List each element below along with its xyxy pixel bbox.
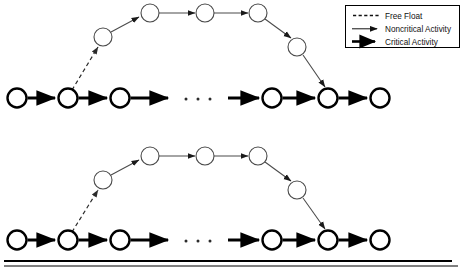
node-noncritical: [141, 4, 159, 22]
node-critical: [263, 231, 282, 250]
figure-canvas: Free Float Noncritical Activity Critical…: [0, 0, 465, 269]
noncritical-edge: [303, 55, 325, 87]
legend-label-noncritical: Noncritical Activity: [385, 25, 452, 34]
legend-label-critical: Critical Activity: [385, 38, 439, 47]
node-critical: [319, 89, 338, 108]
legend-box: Free Float Noncritical Activity Critical…: [346, 6, 460, 48]
node-critical: [8, 89, 27, 108]
noncritical-edge: [111, 17, 139, 32]
ellipsis-dot: [197, 98, 200, 101]
noncritical-edge: [265, 162, 291, 181]
noncritical-edge: [111, 160, 139, 175]
free-float-edge: [72, 190, 98, 232]
legend-label-free-float: Free Float: [385, 12, 423, 21]
node-noncritical: [288, 38, 306, 56]
node-noncritical: [196, 4, 214, 22]
node-critical: [371, 231, 390, 250]
node-noncritical: [196, 147, 214, 165]
ellipsis-dot: [197, 240, 200, 243]
ellipsis-top: [185, 98, 212, 101]
node-noncritical: [249, 4, 267, 22]
node-critical: [111, 231, 130, 250]
node-critical: [319, 231, 338, 250]
ellipsis-dot: [185, 98, 188, 101]
noncritical-nodes-top: [94, 4, 306, 56]
free-float-edge: [72, 47, 98, 90]
node-critical: [263, 89, 282, 108]
node-noncritical: [94, 171, 112, 189]
noncritical-nodes-bottom: [94, 147, 306, 199]
node-noncritical: [249, 147, 267, 165]
node-critical: [371, 89, 390, 108]
network-diagram-bottom: [8, 147, 390, 250]
node-critical: [59, 231, 78, 250]
node-critical: [59, 89, 78, 108]
node-critical: [8, 231, 27, 250]
node-noncritical: [288, 181, 306, 199]
ellipsis-bottom: [185, 240, 212, 243]
ellipsis-dot: [185, 240, 188, 243]
ellipsis-dot: [209, 98, 212, 101]
node-noncritical: [141, 147, 159, 165]
network-diagram-top: [8, 4, 390, 108]
bottom-rules: [4, 261, 458, 266]
network-diagram-svg: Free Float Noncritical Activity Critical…: [0, 0, 465, 269]
node-critical: [111, 89, 130, 108]
noncritical-edge: [265, 19, 291, 38]
ellipsis-dot: [209, 240, 212, 243]
node-noncritical: [94, 28, 112, 46]
noncritical-edge: [303, 198, 325, 229]
